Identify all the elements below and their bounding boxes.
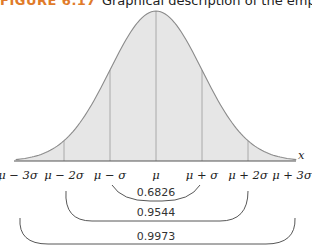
prob-2sigma: 0.9544 bbox=[137, 206, 176, 219]
prob-3sigma: 0.9973 bbox=[137, 230, 176, 243]
tick-label: μ bbox=[152, 168, 159, 182]
tick-label: μ − 2σ bbox=[44, 168, 85, 182]
x-tick-labels: μ − 3σ μ − 2σ μ − σ μ μ + σ μ + 2σ μ + 3… bbox=[0, 168, 312, 182]
tick-label: μ + 2σ bbox=[228, 168, 269, 182]
prob-1sigma: 0.6826 bbox=[137, 186, 176, 199]
tick-label: μ + σ bbox=[186, 168, 219, 182]
tick-label: μ − 3σ bbox=[0, 168, 39, 182]
tick-label: μ − σ bbox=[94, 168, 127, 182]
x-axis-label: x bbox=[298, 148, 305, 162]
normal-curve-chart: x μ − 3σ μ − 2σ μ − σ μ μ + σ μ + 2σ μ +… bbox=[0, 0, 312, 246]
tick-label: μ + 3σ bbox=[272, 168, 312, 182]
